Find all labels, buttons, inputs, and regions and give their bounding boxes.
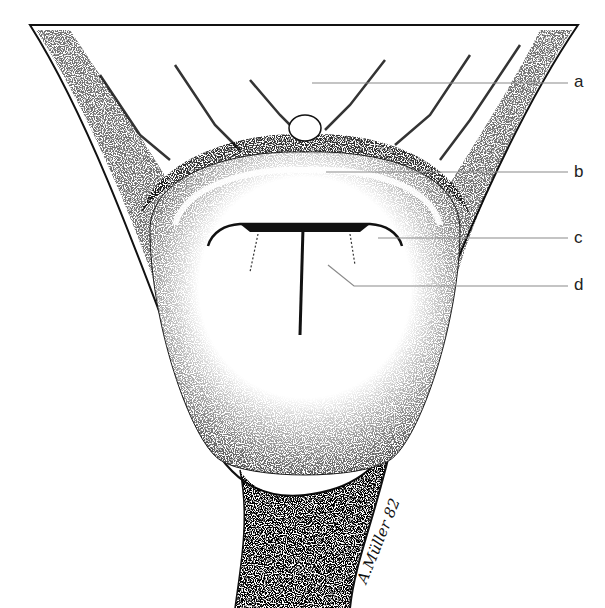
label-a: a <box>574 73 583 90</box>
tongue-illustration <box>0 0 605 608</box>
label-d: d <box>574 276 583 293</box>
label-c: c <box>574 229 583 246</box>
tongue <box>150 152 460 475</box>
label-b: b <box>574 163 583 180</box>
